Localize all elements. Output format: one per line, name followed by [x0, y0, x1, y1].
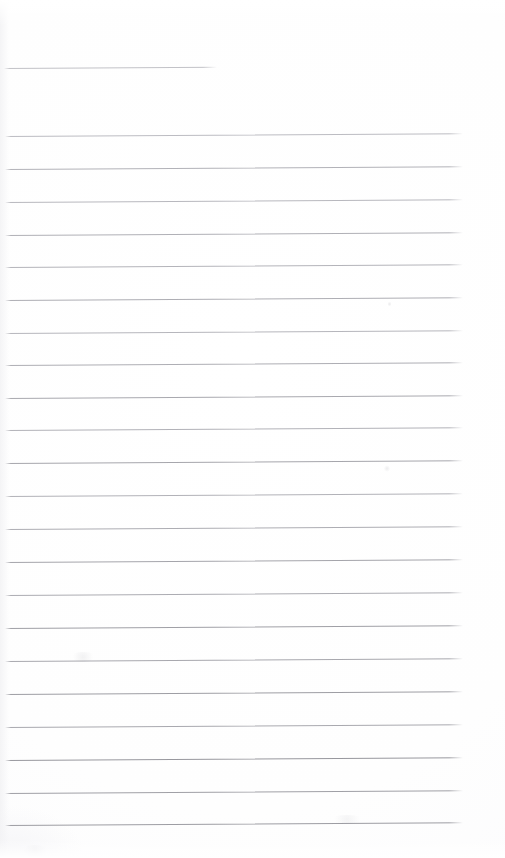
scan-artifacts-layer	[0, 0, 505, 858]
mark-tick-upper	[388, 301, 391, 307]
mark-smudge-left	[70, 652, 96, 662]
mark-smudge-lower	[330, 815, 364, 824]
mark-smudge-bottom-left	[20, 845, 50, 857]
mark-tick-middle	[384, 465, 390, 472]
scanned-paper-page	[0, 0, 505, 858]
